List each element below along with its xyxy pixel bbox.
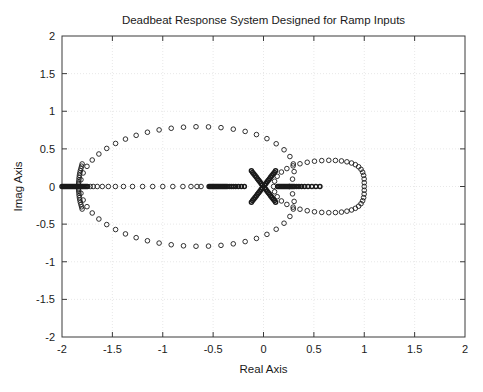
data-series	[60, 185, 89, 189]
ytick-label: -1	[45, 256, 55, 268]
ytick-label: 1.5	[40, 68, 55, 80]
data-series	[207, 185, 246, 189]
plot-canvas: -2-1.5-1-0.500.511.52-2-1.5-1-0.500.511.…	[0, 0, 483, 392]
figure-background	[0, 0, 483, 392]
xtick-label: -2	[57, 343, 67, 355]
chart-title: Deadbeat Response System Designed for Ra…	[122, 14, 405, 26]
ytick-label: -1.5	[36, 293, 55, 305]
ytick-label: 0.5	[40, 143, 55, 155]
xtick-label: -1	[158, 343, 168, 355]
xtick-label: 1.5	[407, 343, 422, 355]
ytick-label: 0	[49, 181, 55, 193]
ytick-label: 1	[49, 105, 55, 117]
xtick-label: 0.5	[306, 343, 321, 355]
xtick-label: 0	[260, 343, 266, 355]
xtick-label: 2	[462, 343, 468, 355]
xtick-label: 1	[361, 343, 367, 355]
ytick-label: 2	[49, 30, 55, 42]
x-axis-label: Real Axis	[240, 363, 288, 375]
xtick-label: -1.5	[103, 343, 122, 355]
xtick-label: -0.5	[204, 343, 223, 355]
root-locus-figure: -2-1.5-1-0.500.511.52-2-1.5-1-0.500.511.…	[0, 0, 483, 392]
ytick-label: -2	[45, 331, 55, 343]
ytick-label: -0.5	[36, 218, 55, 230]
y-axis-label: Imag Axis	[12, 161, 24, 211]
